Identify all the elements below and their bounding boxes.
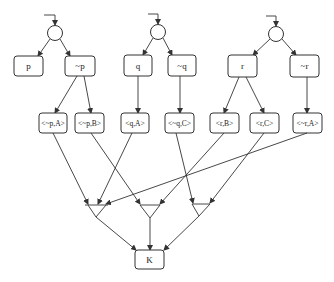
svg-text:<~p,B>: <~p,B>	[78, 119, 101, 128]
svg-text:<r,C>: <r,C>	[256, 119, 274, 128]
diagram-canvas: p ~p q ~q r ~r <~p,A> <~p,B> <q,A> <	[0, 0, 334, 282]
node-r-B: <r,B>	[210, 113, 239, 133]
svg-text:<r,B>: <r,B>	[216, 119, 234, 128]
svg-text:q: q	[136, 61, 141, 71]
node-p: p	[14, 56, 43, 76]
node-not-p-A: <~p,A>	[39, 113, 67, 133]
node-not-p: ~p	[65, 56, 95, 76]
and-gate-C	[192, 204, 210, 216]
svg-text:~q: ~q	[177, 61, 187, 71]
svg-text:<q,A>: <q,A>	[125, 119, 145, 128]
svg-text:r: r	[241, 61, 244, 71]
svg-text:K: K	[146, 255, 153, 265]
svg-text:~p: ~p	[75, 61, 85, 71]
node-not-r-A: <~r,A>	[293, 113, 322, 133]
node-K: K	[135, 250, 164, 269]
svg-text:~r: ~r	[301, 61, 309, 71]
node-r-C: <r,C>	[250, 113, 279, 133]
and-gate-B	[140, 205, 160, 218]
node-not-p-B: <~p,B>	[75, 113, 104, 133]
or-node-q	[148, 14, 166, 40]
node-q: q	[124, 55, 152, 76]
svg-text:p: p	[26, 61, 31, 71]
svg-text:<~q,C>: <~q,C>	[168, 119, 191, 128]
node-not-q: ~q	[168, 55, 196, 76]
svg-text:<~r,A>: <~r,A>	[296, 119, 318, 128]
node-r: r	[228, 55, 257, 77]
node-not-r: ~r	[290, 55, 319, 77]
and-gate-A	[85, 205, 108, 217]
node-not-q-C: <~q,C>	[165, 113, 194, 133]
or-node-r	[266, 16, 284, 42]
or-node-p	[44, 15, 63, 41]
svg-text:<~p,A>: <~p,A>	[41, 119, 65, 128]
node-q-A: <q,A>	[121, 113, 149, 133]
